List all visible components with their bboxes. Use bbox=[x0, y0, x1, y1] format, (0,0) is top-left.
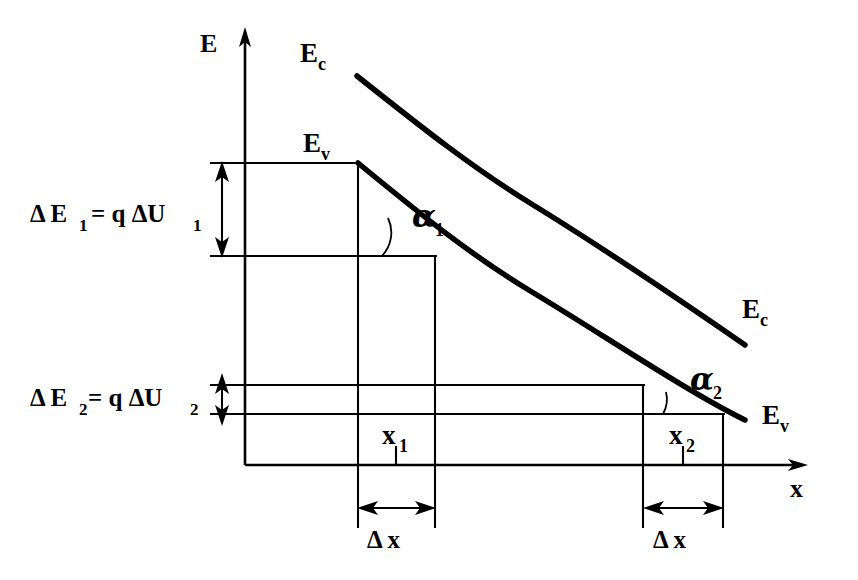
svg-text:E: E bbox=[303, 128, 321, 158]
svg-text:2: 2 bbox=[79, 400, 88, 419]
label-alpha1: α 1 bbox=[412, 198, 444, 240]
svg-text:= q ΔU: = q ΔU bbox=[88, 384, 162, 411]
reference-lines-step2 bbox=[210, 385, 725, 414]
delta-e1-arrow bbox=[215, 161, 229, 258]
svg-text:v: v bbox=[780, 416, 789, 436]
label-ec-right: E c bbox=[742, 294, 768, 330]
delta-x-span-2 bbox=[643, 501, 724, 515]
svg-text:x: x bbox=[382, 420, 396, 450]
svg-text:Δ E: Δ E bbox=[30, 200, 67, 227]
svg-text:= q ΔU: = q ΔU bbox=[91, 200, 165, 227]
svg-text:E: E bbox=[300, 38, 318, 68]
label-ev-left: E v bbox=[303, 128, 330, 164]
angle-arc-alpha2 bbox=[663, 392, 667, 414]
svg-text:E: E bbox=[742, 294, 760, 324]
angle-arc-alpha1 bbox=[382, 218, 391, 256]
label-alpha2: α 2 bbox=[690, 361, 722, 403]
label-delta-x-1: Δ x bbox=[367, 526, 401, 553]
svg-text:1: 1 bbox=[399, 436, 408, 456]
svg-text:c: c bbox=[318, 54, 326, 74]
svg-text:2: 2 bbox=[713, 383, 722, 403]
svg-text:2: 2 bbox=[190, 400, 199, 419]
label-delta-e2: Δ E 2 = q ΔU 2 bbox=[30, 384, 199, 419]
svg-text:x: x bbox=[669, 420, 683, 450]
svg-text:α: α bbox=[690, 361, 714, 397]
svg-text:Δ E: Δ E bbox=[30, 384, 67, 411]
y-axis bbox=[239, 27, 251, 465]
svg-text:1: 1 bbox=[193, 216, 202, 235]
label-delta-x-2: Δ x bbox=[653, 526, 687, 553]
svg-text:v: v bbox=[321, 144, 330, 164]
svg-text:c: c bbox=[760, 310, 768, 330]
energy-band-diagram: E x E c E v E c E v α 1 α 2 x 1 x 2 Δ E bbox=[0, 0, 858, 580]
label-ev-right: E v bbox=[762, 400, 789, 436]
svg-text:2: 2 bbox=[686, 436, 695, 456]
label-delta-e1: Δ E 1 = q ΔU 1 bbox=[30, 200, 202, 235]
delta-e2-arrow bbox=[215, 373, 229, 426]
y-axis-label: E bbox=[200, 29, 217, 58]
svg-text:α: α bbox=[412, 198, 436, 234]
svg-text:1: 1 bbox=[79, 216, 88, 235]
x-axis-label: x bbox=[790, 474, 803, 503]
delta-x-span-1 bbox=[357, 501, 436, 515]
svg-text:1: 1 bbox=[435, 220, 444, 240]
svg-text:E: E bbox=[762, 400, 780, 430]
label-ec-left: E c bbox=[300, 38, 326, 74]
